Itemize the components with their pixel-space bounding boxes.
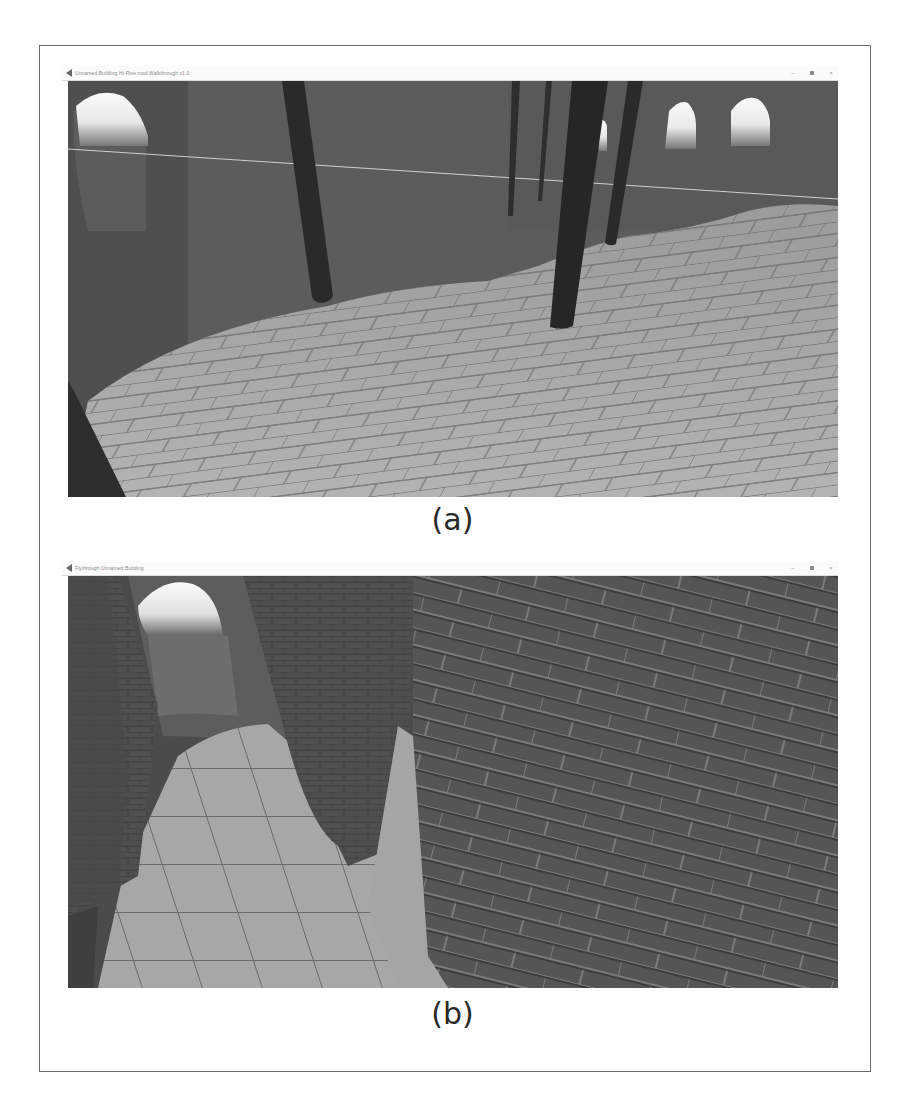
close-button[interactable]: × [828,565,834,571]
close-button[interactable]: × [828,70,834,76]
app-window-walkthrough: Unnamed Building Hi-Rise mod Walkthrough… [62,66,838,497]
window-controls: – × [790,66,834,80]
caption-a: (a) [0,502,905,537]
window-controls: – × [790,561,834,575]
3d-viewport[interactable] [68,576,838,988]
3d-viewport[interactable] [68,81,838,497]
window-title: Flythrough Unnamed Building [75,565,144,571]
scene-render-hall [68,81,838,497]
app-window-flythrough: Flythrough Unnamed Building – × [62,561,838,988]
maximize-button[interactable] [810,71,814,75]
app-icon [66,69,72,77]
title-bar[interactable]: Unnamed Building Hi-Rise mod Walkthrough… [62,66,838,81]
minimize-button[interactable]: – [790,565,796,571]
window-title: Unnamed Building Hi-Rise mod Walkthrough… [75,70,189,76]
caption-b: (b) [0,996,905,1031]
scene-render-corridor [68,576,838,988]
minimize-button[interactable]: – [790,70,796,76]
maximize-button[interactable] [810,566,814,570]
app-icon [66,564,72,572]
title-bar[interactable]: Flythrough Unnamed Building – × [62,561,838,576]
